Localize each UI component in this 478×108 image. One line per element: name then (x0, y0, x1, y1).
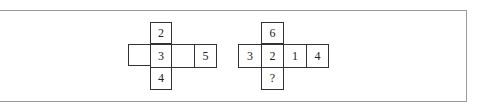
net-1-face-bottom: 4 (150, 67, 172, 90)
net-1-face-center: 3 (150, 44, 172, 68)
net-1-face-far-right: 5 (194, 44, 217, 68)
net-2-face-left: 3 (238, 44, 262, 68)
net-1-face-top: 2 (150, 22, 172, 44)
figure-frame (0, 10, 467, 102)
net-2-face-bottom-unknown: ? (261, 67, 284, 90)
net-2-face-right: 1 (283, 44, 307, 68)
net-1-face-left (128, 44, 151, 66)
net-2-face-top: 6 (261, 22, 284, 44)
net-2-face-center: 2 (261, 44, 284, 68)
net-2-face-far-right: 4 (306, 44, 329, 68)
net-1-face-right (171, 44, 195, 68)
